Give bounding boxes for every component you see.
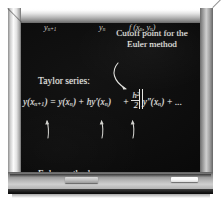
annotation-b-sub: n	[103, 26, 106, 32]
eq-lhs: y(x	[23, 97, 34, 107]
taylor-series-label-text: Taylor series:	[38, 75, 90, 86]
frame-rail-right	[200, 8, 213, 194]
eq-lhs-sub: n+1	[34, 101, 44, 107]
cutoff-bar-first	[139, 89, 140, 109]
eq-lhs-close: ) = y(x	[44, 97, 69, 107]
frame-rail-left	[8, 8, 21, 194]
eq-term2-close: )	[108, 97, 111, 107]
taylor-series-label: Taylor series:	[38, 76, 90, 86]
eq-tail-open: (x	[151, 97, 158, 107]
board-frame: Cutoff point for the Euler method Taylor…	[8, 8, 213, 194]
chalk-tray	[8, 172, 213, 194]
board-drop-shadow	[12, 194, 210, 198]
chalkboard-surface: Cutoff point for the Euler method Taylor…	[21, 23, 200, 172]
cutoff-marker-bars	[138, 89, 144, 109]
annotation-c-base: f (x	[129, 23, 140, 32]
taylor-series-equation: y(xn+1) = y(xn) + hy′(xn)+ h22 y″(xn) + …	[23, 91, 182, 109]
eq-term2-open: (x	[98, 97, 105, 107]
eq-term1-close: ) + hy	[73, 97, 96, 107]
frame-corner-seam-top-right	[212, 0, 221, 8]
eq-plus: +	[123, 97, 129, 107]
annotation-c-mid: , y	[142, 23, 150, 32]
annotation-y-n: yn	[99, 23, 105, 32]
annotation-c-close: )	[153, 23, 156, 32]
annotation-f-xn-yn: f (xn, yn)	[129, 23, 155, 32]
chalk-piece-gray-icon	[65, 177, 98, 183]
frame-rail-top	[8, 8, 213, 23]
eq-tail-close: ) + ...	[161, 97, 182, 107]
annotation-a-sub: n+1	[48, 26, 57, 32]
blackboard-scene: Cutoff point for the Euler method Taylor…	[0, 0, 221, 220]
annotation-y-n-plus-1: yn+1	[44, 23, 56, 32]
cutoff-bar-second	[142, 89, 143, 109]
chalk-piece-white-icon	[171, 177, 198, 182]
